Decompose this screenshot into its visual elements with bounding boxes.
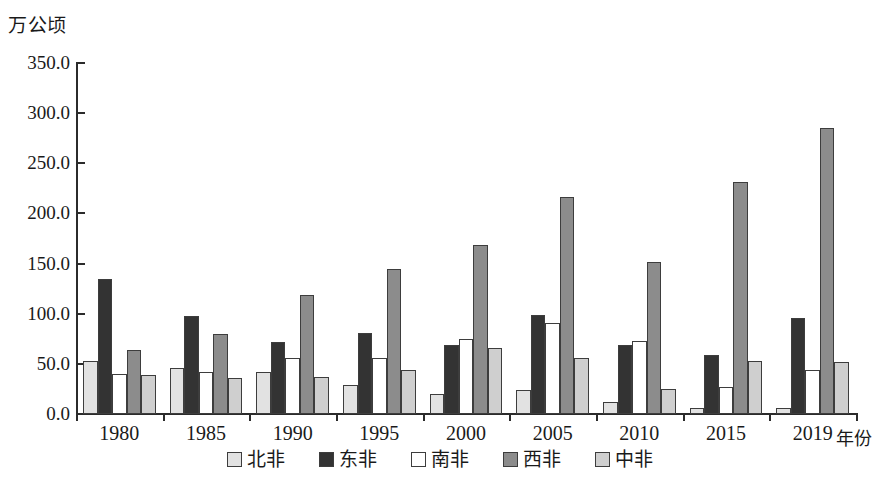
bar-中非-1980 [141,375,156,414]
x-axis-tick [423,414,425,421]
x-axis-tick [769,414,771,421]
bar-北非-2000 [430,394,445,414]
bar-北非-2005 [516,390,531,414]
bar-东非-2015 [704,355,719,414]
bar-中非-2000 [488,348,503,414]
bar-西非-1980 [127,350,142,414]
y-axis-tick-label: 50.0 [2,354,70,373]
bar-南非-2000 [459,339,474,414]
legend-swatch-icon [411,452,426,467]
legend-label: 南非 [431,450,469,469]
y-axis-tick-label: 300.0 [2,103,70,122]
legend-swatch-icon [319,452,334,467]
y-axis-tick-label: 150.0 [2,254,70,273]
bar-东非-2010 [618,345,633,414]
y-axis-tick-label: 0.0 [2,404,70,423]
bar-北非-2010 [603,402,618,414]
x-axis-tick [76,414,78,421]
bar-中非-1990 [314,377,329,414]
bar-南非-2005 [545,323,560,414]
x-axis-tick [596,414,598,421]
legend-label: 北非 [247,450,285,469]
bar-东非-2019 [791,318,806,414]
bar-西非-2000 [473,245,488,414]
x-axis-title: 年份 [836,424,872,450]
legend-swatch-icon [503,452,518,467]
bar-南非-1990 [285,358,300,414]
bar-西非-2015 [733,182,748,414]
bar-东非-1990 [271,342,286,414]
bar-南非-1985 [199,372,214,414]
bar-西非-1985 [213,334,228,414]
x-axis-label-1980: 1980 [74,421,164,445]
bar-西非-2019 [820,128,835,414]
bar-中非-2015 [748,361,763,414]
legend-swatch-icon [227,452,242,467]
bar-西非-1990 [300,295,315,414]
bar-北非-2015 [690,408,705,414]
legend-item-北非[interactable]: 北非 [227,450,285,469]
y-axis-title: 万公顷 [8,10,67,37]
bar-东非-1985 [184,316,199,414]
legend-item-南非[interactable]: 南非 [411,450,469,469]
bar-北非-1990 [256,372,271,414]
x-axis-label-2005: 2005 [508,421,598,445]
bar-南非-2015 [719,387,734,414]
bar-北非-1985 [170,368,185,414]
bar-南非-2019 [805,370,820,414]
x-axis-tick [683,414,685,421]
y-axis-tick-label: 350.0 [2,53,70,72]
legend-item-中非[interactable]: 中非 [595,450,653,469]
bar-北非-1995 [343,385,358,414]
legend-item-东非[interactable]: 东非 [319,450,377,469]
bar-西非-2005 [560,197,575,414]
bar-中非-2019 [834,362,849,414]
x-axis-label-1990: 1990 [248,421,338,445]
bar-东非-1995 [358,333,373,414]
bar-西非-1995 [387,269,402,414]
bar-东非-1980 [98,279,113,414]
x-axis-label-1985: 1985 [161,421,251,445]
chart-legend: 北非东非南非西非中非 [0,450,880,469]
y-axis-tick-label: 100.0 [2,304,70,323]
bar-中非-1985 [228,378,243,414]
x-axis-label-2010: 2010 [594,421,684,445]
x-axis-tick [163,414,165,421]
x-axis-tick [336,414,338,421]
bar-北非-2019 [776,408,791,414]
y-axis-tick-label: 200.0 [2,203,70,222]
bar-中非-2010 [661,389,676,414]
legend-swatch-icon [595,452,610,467]
x-axis-label-2015: 2015 [681,421,771,445]
bar-南非-1980 [112,374,127,414]
x-axis-tick [249,414,251,421]
bar-东非-2000 [444,345,459,414]
bar-南非-2010 [632,341,647,414]
x-axis-tick [509,414,511,421]
bar-南非-1995 [372,358,387,414]
legend-item-西非[interactable]: 西非 [503,450,561,469]
legend-label: 东非 [339,450,377,469]
bar-北非-1980 [83,361,98,414]
bar-中非-2005 [574,358,589,414]
x-axis-tick [856,414,858,421]
bar-西非-2010 [647,262,662,414]
plot-area [76,63,856,414]
bar-chart-figure: 万公顷 0.050.0100.0150.0200.0250.0300.0350.… [0,0,880,479]
y-axis-tick-label: 250.0 [2,153,70,172]
legend-label: 中非 [615,450,653,469]
legend-label: 西非 [523,450,561,469]
x-axis-label-1995: 1995 [334,421,424,445]
bar-东非-2005 [531,315,546,414]
x-axis-label-2000: 2000 [421,421,511,445]
bar-中非-1995 [401,370,416,414]
